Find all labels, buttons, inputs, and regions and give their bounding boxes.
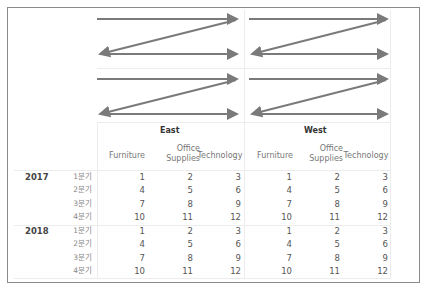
table-cell: 5 <box>163 239 193 249</box>
table-cell: 11 <box>163 266 193 276</box>
table-cell: 1 <box>115 226 145 236</box>
table-cell: 11 <box>310 212 340 222</box>
table-cell: 10 <box>115 266 145 276</box>
table-cell: 10 <box>262 266 292 276</box>
table-cell: 7 <box>115 199 145 209</box>
table-cell: 1 <box>262 226 292 236</box>
table-cell: 3 <box>211 172 241 182</box>
table-cell: 7 <box>115 253 145 263</box>
col-header-office-supplies: Office Supplies <box>303 144 343 164</box>
table-cell: 5 <box>310 185 340 195</box>
table-cell: 12 <box>211 266 241 276</box>
arrow-diagonal-icon <box>100 80 236 114</box>
table-cell: 1 <box>115 172 145 182</box>
table-cell: 3 <box>358 172 388 182</box>
col-header-office-line1: Office <box>303 144 343 154</box>
table-cell: 8 <box>310 253 340 263</box>
table-cell: 8 <box>163 199 193 209</box>
table-cell: 10 <box>115 212 145 222</box>
table-cell: 4 <box>115 239 145 249</box>
table-cell: 11 <box>163 212 193 222</box>
col-header-office-supplies: Office Supplies <box>160 144 200 164</box>
header-separator <box>14 170 390 171</box>
arrow-diagonal-icon <box>100 20 236 54</box>
col-header-office-line2: Supplies <box>160 154 200 164</box>
quarter-label: 4분기 <box>52 212 92 222</box>
quarter-label: 3분기 <box>52 253 92 263</box>
table-cell: 9 <box>358 253 388 263</box>
table-cell: 9 <box>211 199 241 209</box>
col-header-furniture: Furniture <box>105 151 149 161</box>
table-cell: 2 <box>163 226 193 236</box>
reading-order-arrows <box>0 0 428 140</box>
table-cell: 12 <box>358 266 388 276</box>
table-cell: 7 <box>262 253 292 263</box>
table-bottom <box>14 278 390 279</box>
quarter-label: 1분기 <box>52 226 92 236</box>
year-label: 2018 <box>25 226 49 236</box>
table-cell: 11 <box>310 266 340 276</box>
region-header-west: West <box>304 126 327 136</box>
table-cell: 2 <box>310 226 340 236</box>
region-header-east: East <box>160 126 179 136</box>
col-header-technology: Technology <box>343 151 389 161</box>
table-cell: 3 <box>211 226 241 236</box>
quarter-label: 3분기 <box>52 199 92 209</box>
table-cell: 4 <box>262 185 292 195</box>
table-cell: 5 <box>310 239 340 249</box>
quarter-label: 2분기 <box>52 185 92 195</box>
table-cell: 2 <box>163 172 193 182</box>
table-cell: 12 <box>211 212 241 222</box>
table-cell: 6 <box>211 239 241 249</box>
table-cell: 6 <box>358 239 388 249</box>
quarter-label: 2분기 <box>52 239 92 249</box>
table-cell: 6 <box>211 185 241 195</box>
table-cell: 5 <box>163 185 193 195</box>
col-header-office-line2: Supplies <box>303 154 343 164</box>
table-cell: 3 <box>358 226 388 236</box>
table-cell: 1 <box>262 172 292 182</box>
table-cell: 8 <box>310 199 340 209</box>
table-cell: 4 <box>115 185 145 195</box>
col-header-technology: Technology <box>197 151 243 161</box>
table-cell: 9 <box>211 253 241 263</box>
table-cell: 9 <box>358 199 388 209</box>
table-cell: 12 <box>358 212 388 222</box>
arrow-diagonal-icon <box>252 80 386 114</box>
table-cell: 2 <box>310 172 340 182</box>
quarter-label: 4분기 <box>52 266 92 276</box>
table-cell: 10 <box>262 212 292 222</box>
table-cell: 4 <box>262 239 292 249</box>
quarter-label: 1분기 <box>52 172 92 182</box>
table-cell: 7 <box>262 199 292 209</box>
table-cell: 6 <box>358 185 388 195</box>
col-header-furniture: Furniture <box>253 151 297 161</box>
year-label: 2017 <box>25 172 49 182</box>
arrow-diagonal-icon <box>252 20 386 54</box>
col-header-office-line1: Office <box>160 144 200 154</box>
table-cell: 8 <box>163 253 193 263</box>
grid-line <box>97 122 98 279</box>
